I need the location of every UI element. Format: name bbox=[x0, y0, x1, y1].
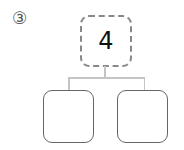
connector-left-drop bbox=[68, 77, 70, 91]
connector-right-drop bbox=[144, 77, 146, 91]
problem-number-label: ③ bbox=[12, 10, 27, 27]
left-answer-box[interactable] bbox=[43, 90, 94, 143]
root-number-box: 4 bbox=[80, 15, 132, 67]
root-number-value: 4 bbox=[98, 27, 113, 55]
right-answer-box[interactable] bbox=[117, 90, 168, 143]
connector-stem bbox=[104, 66, 106, 77]
connector-horizontal bbox=[68, 77, 145, 79]
